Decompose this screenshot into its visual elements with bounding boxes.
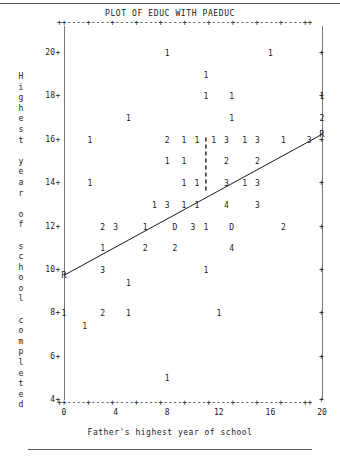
regression-marker-end: R (320, 130, 325, 139)
line-overlay-layer (0, 0, 340, 456)
plot-screenshot: PLOT OF EDUC WITH PAEDUC ++----+----+---… (0, 0, 340, 456)
regression-marker-start: R (62, 271, 67, 280)
bottom-divider-rule (28, 449, 312, 450)
regression-line (64, 134, 322, 275)
